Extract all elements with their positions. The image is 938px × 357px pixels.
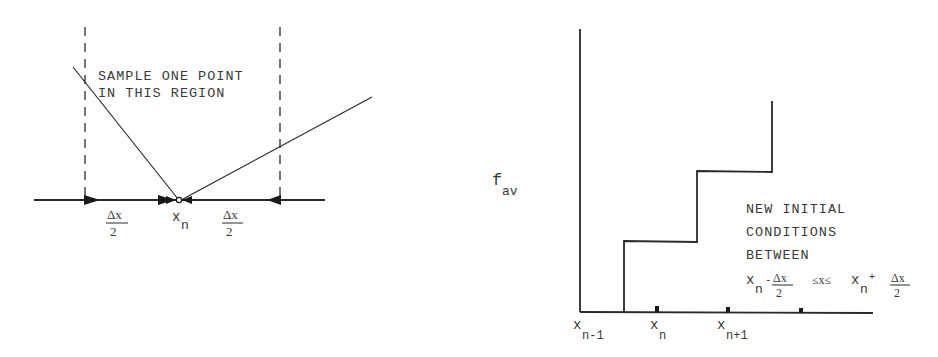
arrowhead-left-boundary-icon xyxy=(267,195,281,205)
lower-base: x xyxy=(746,272,754,288)
annotation-line-1: SAMPLE ONE POINT xyxy=(98,69,244,84)
left-diagram: SAMPLE ONE POINT IN THIS REGION Δx 2 x n… xyxy=(34,27,372,239)
label-base: x xyxy=(172,209,180,225)
upper-operator: + xyxy=(869,272,875,283)
fraction-denominator: 2 xyxy=(110,224,117,239)
label-subscript: av xyxy=(502,184,518,199)
upper-denominator: 2 xyxy=(894,286,900,300)
sample-point-circle xyxy=(176,197,181,202)
fraction-numerator: Δx xyxy=(223,207,238,222)
right-half-width-fraction: Δx 2 xyxy=(222,207,243,239)
upper-base: x xyxy=(851,272,859,288)
tick-mark-xn2 xyxy=(799,308,803,313)
arrowhead-converge-left-icon xyxy=(166,196,176,204)
inequality-expression: x n - Δx 2 ≤x≤ x n + Δx 2 xyxy=(746,271,910,300)
y-axis-label: f av xyxy=(492,171,518,199)
lower-denominator: 2 xyxy=(776,286,782,300)
inequality-middle: ≤x≤ xyxy=(812,273,832,287)
left-half-width-fraction: Δx 2 xyxy=(106,207,128,239)
lower-subscript: n xyxy=(755,282,763,297)
arrowhead-right-icon xyxy=(84,195,100,205)
label-subscript: n xyxy=(181,218,189,233)
label-base: x xyxy=(717,317,725,333)
annotation-line-2: IN THIS REGION xyxy=(98,86,225,101)
x-tick-label-n-plus-1: x n+1 xyxy=(717,317,748,343)
label-base: f xyxy=(492,171,502,190)
label-base: x xyxy=(650,317,658,333)
fraction-numerator: Δx xyxy=(107,207,122,222)
x-tick-label-n: x n xyxy=(650,317,666,343)
center-point-label: x n xyxy=(172,209,189,233)
label-subscript: n xyxy=(659,329,666,343)
tick-mark-xn xyxy=(655,306,659,312)
tick-mark-xn1 xyxy=(726,307,730,313)
x-tick-label-n-minus-1: x n-1 xyxy=(573,317,604,343)
annotation-line-1: NEW INITIAL xyxy=(746,202,846,217)
right-characteristic-line xyxy=(183,97,372,199)
right-diagram: f av x n-1 x n x n+1 NEW INITIAL CONDITI… xyxy=(492,29,910,343)
label-subscript: n-1 xyxy=(582,329,604,343)
annotation-line-2: CONDITIONS xyxy=(746,225,837,240)
lower-operator: - xyxy=(765,274,772,286)
lower-numerator: Δx xyxy=(773,271,787,285)
upper-numerator: Δx xyxy=(891,271,905,285)
figure-canvas: SAMPLE ONE POINT IN THIS REGION Δx 2 x n… xyxy=(0,0,938,357)
upper-subscript: n xyxy=(860,282,868,297)
fraction-denominator: 2 xyxy=(226,224,233,239)
label-subscript: n+1 xyxy=(726,329,748,343)
annotation-line-3: BETWEEN xyxy=(746,248,810,263)
label-base: x xyxy=(573,317,581,333)
